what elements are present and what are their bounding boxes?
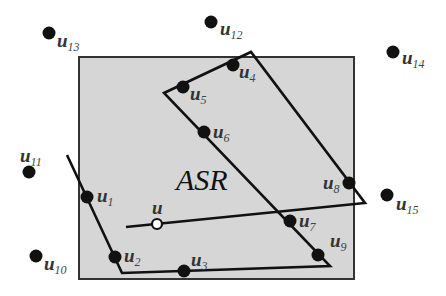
node-dot-icon bbox=[387, 46, 400, 59]
node-label-u13: u13 bbox=[57, 30, 80, 54]
query-node-open-circle-icon bbox=[152, 219, 162, 229]
node-u11: u11 bbox=[20, 145, 42, 179]
node-dot-icon bbox=[177, 81, 190, 94]
node-u14: u14 bbox=[387, 46, 425, 72]
node-label-u11: u11 bbox=[20, 145, 42, 169]
node-dot-icon bbox=[284, 215, 297, 228]
node-dot-icon bbox=[227, 59, 240, 72]
node-dot-icon bbox=[205, 16, 218, 29]
asr-region-label: ASR bbox=[174, 163, 228, 196]
query-node-layer: u bbox=[152, 197, 163, 229]
node-dot-icon bbox=[81, 191, 94, 204]
node-dot-icon bbox=[109, 251, 122, 264]
node-label-u10: u10 bbox=[44, 253, 67, 277]
node-u13: u13 bbox=[43, 27, 80, 55]
node-u12: u12 bbox=[205, 16, 243, 43]
node-dot-icon bbox=[343, 177, 356, 190]
node-label-u15: u15 bbox=[396, 193, 419, 217]
node-label-u12: u12 bbox=[220, 18, 243, 42]
asr-diagram: ASR u1u2u3u4u5u6u7u8u9u10u11u12u13u14u15… bbox=[0, 0, 446, 296]
node-dot-icon bbox=[30, 250, 43, 263]
node-dot-icon bbox=[178, 265, 191, 278]
node-u15: u15 bbox=[381, 189, 419, 218]
node-u10: u10 bbox=[30, 250, 67, 278]
node-dot-icon bbox=[381, 189, 394, 202]
node-dot-icon bbox=[312, 249, 325, 262]
node-dot-icon bbox=[198, 126, 211, 139]
node-dot-icon bbox=[43, 27, 56, 40]
node-label-u: u bbox=[152, 197, 163, 218]
node-label-u14: u14 bbox=[402, 47, 425, 71]
